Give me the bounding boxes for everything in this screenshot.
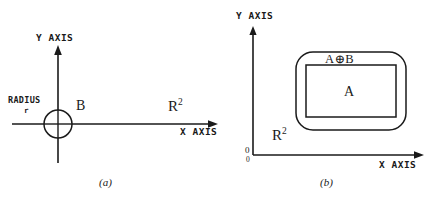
- diagram-canvas: [0, 0, 433, 206]
- panel-b-space-exponent: 2: [282, 126, 287, 136]
- panel-b-y-axis-arrowhead: [249, 26, 256, 35]
- panel-b-origin-label: 0: [245, 146, 250, 155]
- panel-a-space-base: R: [168, 98, 178, 114]
- panel-a-element-label: B: [76, 99, 85, 113]
- panel-b-x-axis-arrowhead: [414, 151, 424, 159]
- panel-b-set-label: A: [344, 85, 354, 99]
- panel-b-space-label: R2: [272, 127, 287, 143]
- panel-a-radius-symbol: r: [24, 107, 29, 115]
- panel-b-y-axis-label: Y AXIS: [236, 11, 273, 21]
- panel-b-dilation-label: A⊕B: [325, 53, 354, 66]
- panel-b-origin-label-secondary: 0: [246, 156, 250, 164]
- panel-a-y-axis-arrowhead: [54, 45, 62, 55]
- panel-a-radius-label: RADIUS: [8, 96, 41, 105]
- panel-b-x-axis-label: X AXIS: [379, 160, 416, 170]
- panel-a-x-axis-label: X AXIS: [180, 127, 217, 137]
- panel-a-y-axis-label: Y AXIS: [36, 33, 73, 43]
- panel-a-graphics: [12, 45, 218, 163]
- panel-b-space-base: R: [272, 127, 282, 143]
- panel-a-space-label: R2: [168, 98, 183, 114]
- panel-b-caption: (b): [320, 177, 333, 188]
- figure-container: Y AXIS X AXIS R2 RADIUS r B (a) Y AXIS X…: [0, 0, 433, 206]
- panel-a-space-exponent: 2: [178, 97, 183, 107]
- panel-a-caption: (a): [99, 177, 112, 188]
